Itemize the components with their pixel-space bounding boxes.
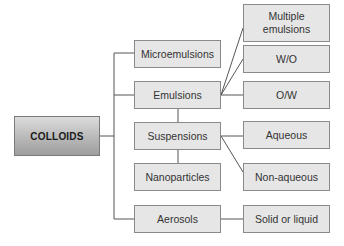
node-label: W/O — [276, 53, 297, 66]
node-suspensions: Suspensions — [134, 122, 221, 150]
node-w-o: W/O — [243, 45, 330, 73]
node-label: Non-aqueous — [255, 171, 318, 184]
node-microemulsions: Microemulsions — [134, 40, 221, 68]
node-aerosols: Aerosols — [134, 205, 221, 233]
node-label: Microemulsions — [141, 48, 214, 61]
node-label: O/W — [276, 89, 297, 102]
node-non-aqueous: Non-aqueous — [243, 163, 330, 191]
node-label: Solid or liquid — [255, 213, 318, 226]
node-multiple-emulsions: Multiple emulsions — [243, 4, 330, 42]
node-emulsions: Emulsions — [134, 81, 221, 109]
node-aqueous: Aqueous — [243, 121, 330, 149]
node-label: Suspensions — [147, 130, 207, 143]
node-o-w: O/W — [243, 81, 330, 109]
node-label: Emulsions — [153, 89, 201, 102]
node-solid-or-liquid: Solid or liquid — [243, 205, 330, 233]
node-label: Nanoparticles — [145, 171, 209, 184]
root-label: COLLOIDS — [30, 130, 83, 143]
node-nanoparticles: Nanoparticles — [134, 163, 221, 191]
node-label: Multiple emulsions — [258, 10, 315, 36]
root-node-colloids: COLLOIDS — [14, 116, 100, 156]
node-label: Aerosols — [157, 213, 198, 226]
node-label: Aqueous — [266, 129, 307, 142]
colloids-diagram: COLLOIDS Microemulsions Emulsions Suspen… — [0, 0, 344, 246]
